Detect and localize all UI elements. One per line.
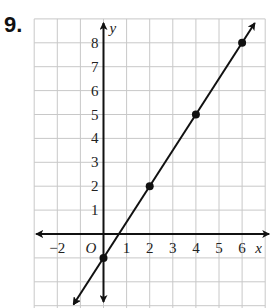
origin-label: O	[86, 240, 97, 256]
x-tick-label: 3	[169, 240, 177, 256]
plotted-line	[73, 23, 254, 304]
x-tick-label: 1	[123, 240, 131, 256]
x-tick-label: −2	[49, 240, 65, 256]
y-tick-label: 2	[91, 178, 99, 194]
coordinate-graph: −212345612345678xyO	[0, 0, 280, 308]
data-point	[146, 182, 154, 190]
data-point	[238, 39, 246, 47]
y-tick-label: 8	[91, 35, 99, 51]
x-tick-label: 6	[238, 240, 246, 256]
data-point	[100, 254, 108, 262]
data-point	[192, 111, 200, 119]
x-tick-label: 2	[146, 240, 154, 256]
x-tick-label: 4	[192, 240, 200, 256]
y-tick-label: 5	[91, 107, 99, 123]
y-tick-label: 1	[91, 202, 99, 218]
y-tick-label: 7	[91, 59, 99, 75]
y-axis-label: y	[108, 20, 117, 36]
y-tick-label: 6	[91, 83, 99, 99]
x-tick-label: 5	[215, 240, 223, 256]
y-tick-label: 3	[91, 154, 99, 170]
y-tick-label: 4	[91, 130, 99, 146]
x-axis-label: x	[254, 240, 262, 256]
